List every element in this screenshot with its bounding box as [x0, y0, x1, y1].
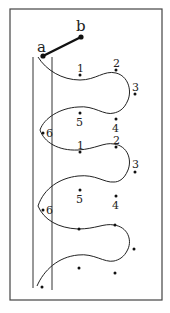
winding-diagram: a b 1 2 3 5 4 6 1 2 3 5 4 6: [0, 0, 170, 313]
dot-6-mid: [42, 209, 45, 212]
dot-5-top: [79, 112, 82, 115]
dot-4-mid: [115, 195, 118, 198]
serpentine-curve: [37, 57, 130, 286]
dot-bottom-2: [114, 224, 117, 227]
label-2-mid: 2: [113, 134, 120, 147]
dot-bottom-5: [78, 267, 81, 270]
label-1-mid: 1: [77, 139, 84, 152]
point-b: [78, 34, 83, 39]
label-3-top: 3: [132, 81, 139, 94]
label-2-top: 2: [113, 57, 120, 70]
label-6-mid: 6: [46, 204, 53, 217]
label-a: a: [37, 38, 46, 56]
dot-bottom-3: [133, 248, 136, 251]
label-1-top: 1: [77, 62, 84, 75]
dot-bottom-end: [41, 286, 44, 289]
lever-ab: [43, 37, 81, 56]
dot-4-top: [115, 118, 118, 121]
dot-bottom-4: [114, 272, 117, 275]
label-5-top: 5: [76, 116, 83, 129]
label-b: b: [76, 17, 86, 35]
dot-bottom-1: [78, 228, 81, 231]
dot-5-mid: [79, 189, 82, 192]
label-4-mid: 4: [112, 199, 119, 212]
dot-6-top: [42, 132, 45, 135]
label-3-mid: 3: [132, 158, 139, 171]
label-5-mid: 5: [76, 193, 83, 206]
label-6-top: 6: [46, 127, 53, 140]
